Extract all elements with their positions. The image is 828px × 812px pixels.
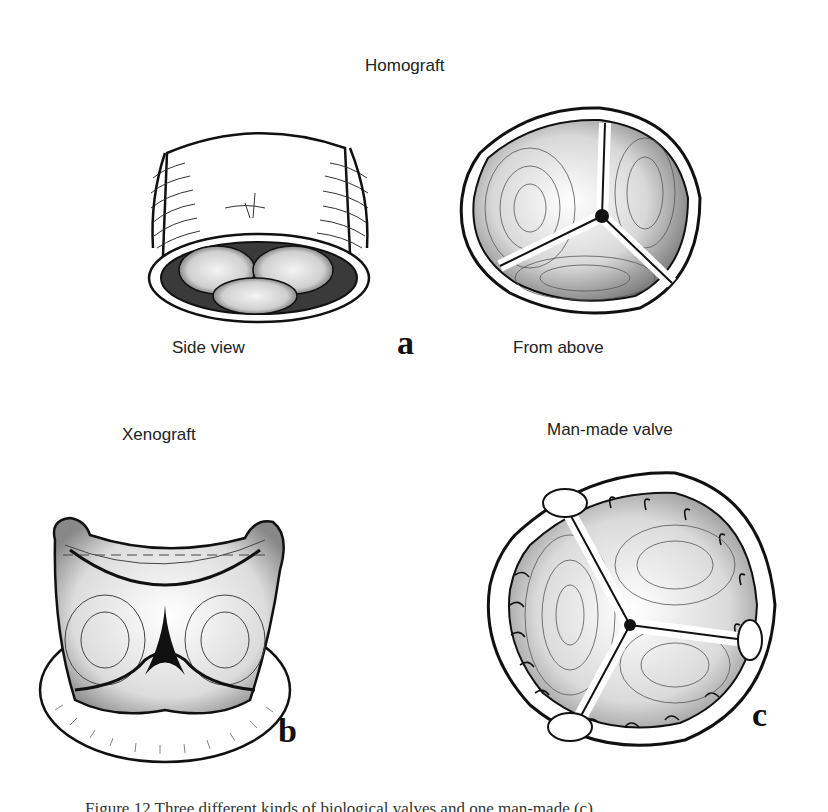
figure-caption: Figure 12 Three different kinds of biolo…	[85, 798, 593, 812]
homograft-title: Homograft	[365, 56, 444, 76]
from-above-label: From above	[513, 338, 604, 358]
side-view-label: Side view	[172, 338, 245, 358]
xenograft-label: Xenograft	[122, 425, 196, 445]
panel-letter-c: c	[752, 698, 767, 732]
man-made-valve-drawing	[475, 465, 785, 755]
panel-letter-b: b	[278, 714, 297, 748]
man-made-valve-label: Man-made valve	[547, 420, 673, 440]
homograft-side-view-drawing	[145, 118, 375, 328]
homograft-from-above-drawing	[450, 98, 705, 320]
xenograft-drawing	[35, 510, 300, 770]
panel-letter-a: a	[397, 326, 414, 360]
